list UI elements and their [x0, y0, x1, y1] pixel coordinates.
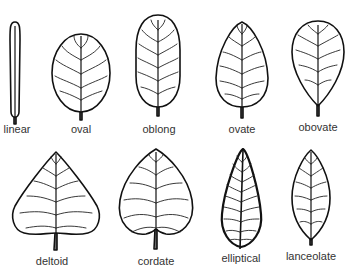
leaf-deltoid: deltoid	[13, 152, 100, 267]
leaf-ovate: ovate	[216, 22, 268, 135]
leaf-shapes-diagram: linear oval	[0, 0, 348, 278]
leaf-oblong: oblong	[136, 15, 180, 135]
label-elliptical: elliptical	[221, 252, 260, 264]
leaf-linear: linear	[4, 22, 31, 135]
label-ovate: ovate	[229, 123, 256, 135]
leaf-obovate: obovate	[292, 21, 344, 133]
label-deltoid: deltoid	[36, 255, 68, 267]
label-obovate: obovate	[298, 121, 337, 133]
leaf-elliptical: elliptical	[221, 149, 261, 264]
label-oval: oval	[71, 123, 91, 135]
label-oblong: oblong	[142, 123, 175, 135]
label-lanceolate: lanceolate	[286, 250, 336, 262]
leaf-cordate: cordate	[119, 149, 192, 267]
leaf-oval: oval	[52, 34, 110, 135]
label-linear: linear	[4, 123, 31, 135]
label-cordate: cordate	[138, 255, 175, 267]
leaf-lanceolate: lanceolate	[286, 150, 336, 262]
